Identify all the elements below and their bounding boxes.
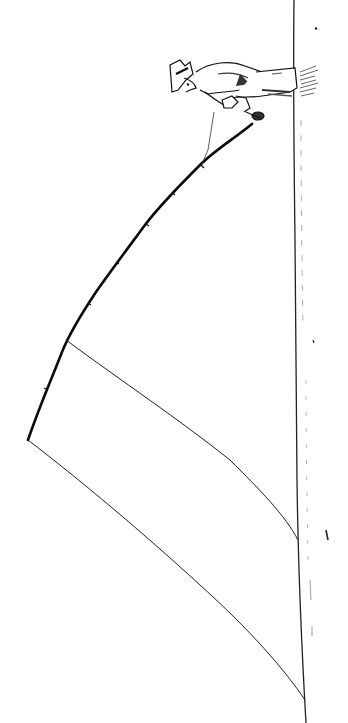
fishing-illustration [0,0,348,723]
